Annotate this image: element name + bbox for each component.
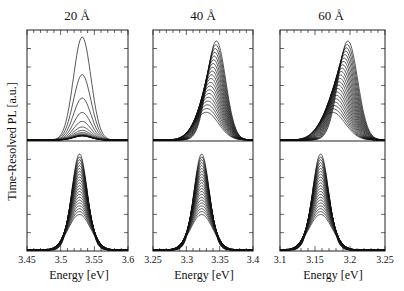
xtick: 3.35 xyxy=(205,254,235,265)
panel-title-60A: 60 Å xyxy=(281,8,381,24)
x-axis-label-1: Energy [eV] xyxy=(24,268,134,283)
panel-title-20A: 20 Å xyxy=(27,8,127,24)
xtick: 3.5 xyxy=(46,254,76,265)
y-axis-label: Time-Resolved PL [a.u.] xyxy=(5,72,20,212)
xtick: 3.25 xyxy=(370,254,400,265)
xtick: 3.2 xyxy=(335,254,365,265)
xtick: 3.4 xyxy=(238,254,268,265)
plot-canvas xyxy=(0,0,404,291)
xtick: 3.55 xyxy=(79,254,109,265)
x-axis-label-2: Energy [eV] xyxy=(149,268,259,283)
xtick: 3.45 xyxy=(12,254,42,265)
xtick: 3.3 xyxy=(172,254,202,265)
xtick: 3.25 xyxy=(138,254,168,265)
panel-title-40A: 40 Å xyxy=(153,8,253,24)
xtick: 3.1 xyxy=(265,254,295,265)
xtick: 3.15 xyxy=(300,254,330,265)
x-axis-label-3: Energy [eV] xyxy=(278,268,388,283)
